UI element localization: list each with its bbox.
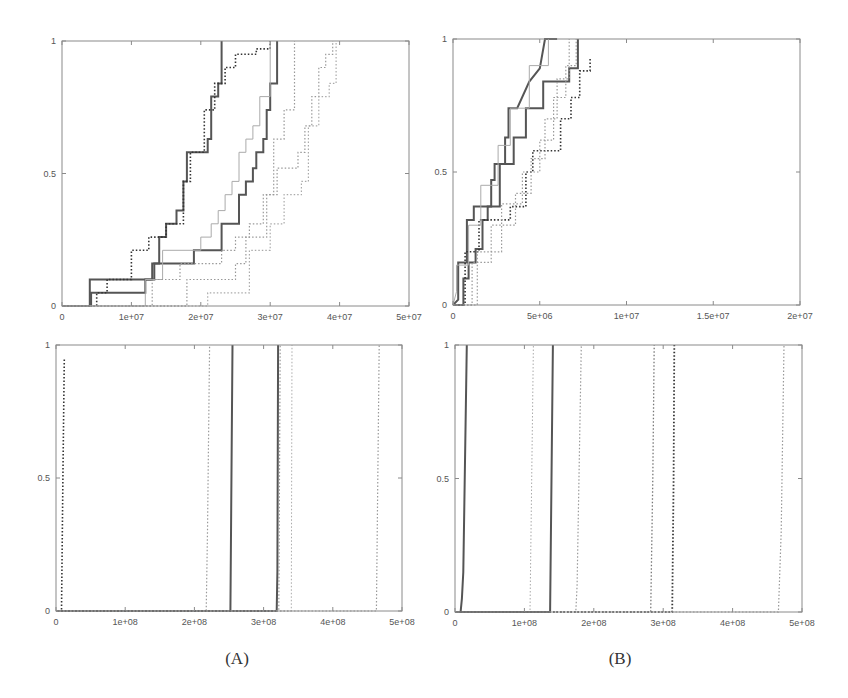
series-solid-dark-2 [453, 39, 578, 305]
x-tick-label: 3e+08 [251, 617, 276, 627]
y-tick-label: 0.5 [436, 474, 449, 484]
series-solid-dark-1 [62, 41, 222, 306]
series-dotted-light-2 [455, 345, 581, 612]
y-tick-label: 1 [51, 36, 56, 46]
chart-bottom-left: 01e+082e+083e+084e+085e+0800.51 [37, 340, 414, 627]
plot-frame [56, 345, 402, 611]
x-tick-label: 3e+08 [651, 618, 676, 628]
x-tick-label: 2e+08 [581, 618, 606, 628]
series-dotted-light-2 [56, 345, 280, 611]
x-tick-label: 4e+08 [320, 617, 345, 627]
x-tick-label: 1e+07 [119, 312, 144, 322]
series-dotted-light-2 [453, 39, 576, 305]
series-solid-light-1 [62, 41, 270, 306]
y-tick-label: 0 [444, 607, 449, 617]
x-tick-label: 5e+08 [789, 618, 814, 628]
series-group [62, 41, 336, 306]
x-tick-label: 3e+07 [258, 312, 283, 322]
series-dotted-light-3 [56, 345, 292, 611]
chart-bottom-right: 01e+082e+083e+084e+085e+0800.51 [436, 340, 814, 628]
series-dotted-light-1 [453, 39, 569, 305]
chart-top-left: 01e+072e+073e+074e+075e+0700.51 [43, 36, 421, 322]
plot-frame [62, 41, 409, 306]
series-dotted-light-2 [62, 41, 333, 306]
x-tick-label: 2e+08 [182, 617, 207, 627]
series-dotted-light-1 [62, 41, 295, 306]
series-dotted-dark-1 [453, 58, 590, 305]
series-solid-dark-2 [56, 345, 278, 611]
x-tick-label: 0 [450, 311, 455, 321]
x-tick-label: 0 [59, 312, 64, 322]
series-group [453, 39, 590, 305]
x-tick-label: 0 [53, 617, 58, 627]
series-solid-dark-2 [62, 41, 277, 306]
x-tick-label: 1e+08 [512, 618, 537, 628]
series-group [56, 345, 379, 611]
x-tick-label: 1e+07 [614, 311, 639, 321]
x-tick-label: 5e+07 [396, 312, 421, 322]
series-solid-dark-1 [56, 345, 233, 611]
y-tick-label: 0 [442, 300, 447, 310]
y-tick-label: 0 [45, 606, 50, 616]
y-tick-label: 1 [45, 340, 50, 350]
series-dotted-light-3 [62, 41, 336, 306]
series-solid-dark-2 [455, 345, 553, 612]
series-dotted-light-1 [56, 345, 210, 611]
panel-label-b: (B) [609, 649, 632, 668]
series-group [455, 345, 784, 612]
plot-frame [455, 345, 802, 612]
x-tick-label: 5e+06 [527, 311, 552, 321]
plot-frame [453, 39, 800, 305]
y-tick-label: 0.5 [37, 473, 50, 483]
x-tick-label: 2e+07 [188, 312, 213, 322]
series-dotted-dark-1 [455, 345, 674, 612]
y-tick-label: 0 [51, 301, 56, 311]
x-tick-label: 4e+07 [327, 312, 352, 322]
x-tick-label: 1.5e+07 [697, 311, 730, 321]
x-tick-label: 4e+08 [720, 618, 745, 628]
panel-label-a: (A) [225, 649, 249, 668]
y-tick-label: 0.5 [43, 169, 56, 179]
series-dotted-mid-1 [455, 345, 654, 612]
y-tick-label: 1 [442, 34, 447, 44]
y-tick-label: 0.5 [434, 167, 447, 177]
chart-top-right: 05e+061e+071.5e+072e+0700.51 [434, 34, 812, 321]
series-dotted-dark-1 [56, 358, 64, 611]
figure-canvas: 01e+072e+073e+074e+075e+0700.51 05e+061e… [0, 0, 848, 698]
x-tick-label: 2e+07 [787, 311, 812, 321]
series-dotted-light-3 [455, 345, 784, 612]
x-tick-label: 0 [452, 618, 457, 628]
x-tick-label: 1e+08 [113, 617, 138, 627]
y-tick-label: 1 [444, 340, 449, 350]
x-tick-label: 5e+08 [389, 617, 414, 627]
series-dotted-light-4 [56, 345, 379, 611]
